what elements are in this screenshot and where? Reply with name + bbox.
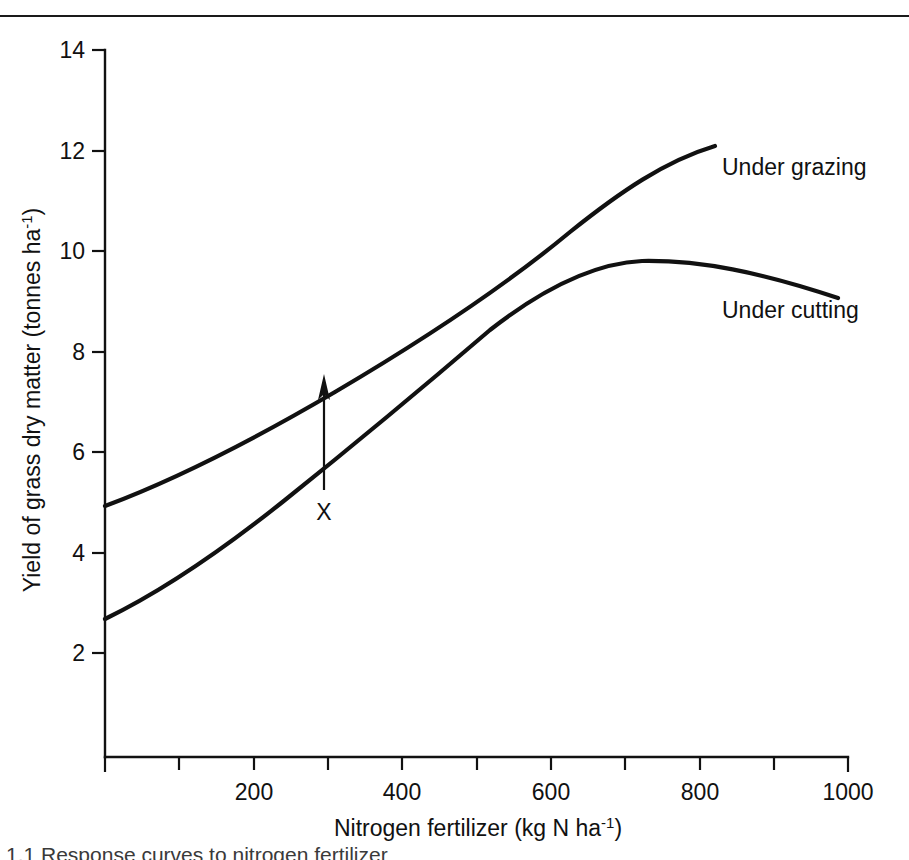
chart-figure: 14 12 10 8 6 4 2 200 40 [0, 0, 909, 860]
x-tick-label-600: 600 [532, 779, 570, 805]
chart-svg: 14 12 10 8 6 4 2 200 40 [0, 0, 909, 860]
series-line-under-grazing [105, 146, 715, 506]
y-tick-label-10: 10 [59, 238, 85, 264]
y-tick-label-2: 2 [72, 640, 85, 666]
y-axis-ticks [92, 50, 105, 653]
x-tick-label-200: 200 [235, 779, 273, 805]
y-tick-label-12: 12 [59, 138, 85, 164]
figure-page: 14 12 10 8 6 4 2 200 40 [0, 0, 909, 860]
x-axis-title: Nitrogen fertilizer (kg N ha-1) [334, 814, 622, 841]
x-tick-label-1000: 1000 [822, 779, 873, 805]
y-tick-label-6: 6 [72, 439, 85, 465]
x-tick-label-800: 800 [681, 779, 719, 805]
y-axis-title: Yield of grass dry matter (tonnes ha-1) [18, 208, 45, 593]
annotation-label-x: X [316, 499, 331, 525]
y-tick-label-8: 8 [72, 339, 85, 365]
series-label-under-grazing: Under grazing [722, 154, 866, 180]
figure-caption: 1.1 Response curves to nitrogen fertiliz… [6, 843, 886, 860]
y-tick-label-14: 14 [59, 37, 85, 63]
series-label-under-cutting: Under cutting [722, 297, 859, 323]
y-tick-label-4: 4 [72, 540, 85, 566]
x-axis-ticks [105, 757, 848, 772]
x-tick-label-400: 400 [383, 779, 421, 805]
